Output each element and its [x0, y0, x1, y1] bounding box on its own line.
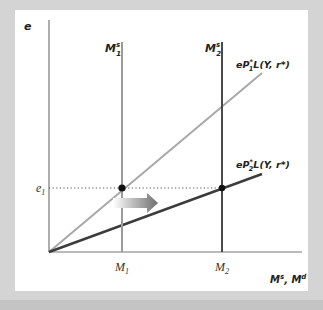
supply-label-m1: Ms1 — [105, 41, 121, 58]
demand-curve-2 — [49, 174, 262, 252]
equilibrium-point-1 — [118, 184, 125, 191]
tick-label-m1: M1 — [114, 260, 129, 276]
demand-curve-1 — [49, 73, 262, 252]
tick-label-m2: M2 — [214, 260, 229, 276]
diagram-svg: e e1 Ms1 Ms2 eP*1L(Y, r*) eP*2L(Y, r*) M… — [0, 0, 323, 310]
demand-label-2: eP*2L(Y, r*) — [236, 158, 290, 173]
demand-label-1: eP*1L(Y, r*) — [236, 58, 290, 73]
e1-label: e1 — [36, 181, 45, 197]
equilibrium-point-2 — [219, 185, 225, 191]
shift-arrow-icon — [113, 193, 158, 213]
x-axis-label: Ms, Md — [270, 273, 307, 285]
supply-label-m2: Ms2 — [205, 41, 221, 58]
y-axis-label: e — [24, 20, 32, 33]
